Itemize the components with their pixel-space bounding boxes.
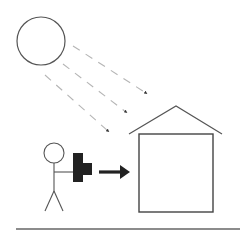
sun-ray <box>45 75 108 131</box>
person-head <box>44 143 64 163</box>
scene-diagram <box>0 0 242 233</box>
sun-rays <box>45 46 146 131</box>
camera-icon <box>73 153 92 182</box>
stick-figure-icon <box>44 143 73 211</box>
sun-ray <box>73 46 146 93</box>
house-icon <box>129 106 222 212</box>
person-leg-left <box>45 191 54 211</box>
house-body <box>139 134 213 212</box>
arrow-right-icon <box>99 165 130 179</box>
sun-ray <box>63 64 126 112</box>
sun-icon <box>17 17 65 65</box>
house-roof <box>129 106 222 134</box>
person-leg-right <box>54 191 63 211</box>
